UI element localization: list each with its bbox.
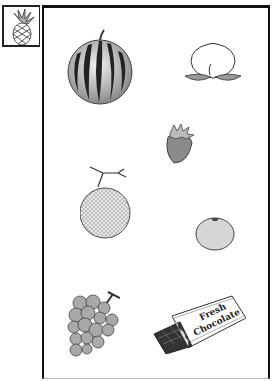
strawberry-icon (162, 123, 196, 165)
chocolate-icon: Fresh Chocolate (150, 294, 246, 354)
melon (80, 165, 142, 243)
watermelon (66, 26, 134, 106)
pineapple-icon (4, 7, 40, 47)
peach-icon (183, 42, 243, 88)
pineapple-box (2, 5, 40, 47)
orange (195, 212, 237, 252)
grapes-icon (66, 288, 120, 358)
watermelon-icon (66, 26, 134, 106)
strawberry (162, 123, 196, 165)
orange-icon (195, 212, 237, 252)
grapes (66, 288, 120, 358)
melon-icon (80, 165, 142, 243)
peach (183, 42, 243, 88)
chocolate: Fresh Chocolate (150, 294, 246, 354)
